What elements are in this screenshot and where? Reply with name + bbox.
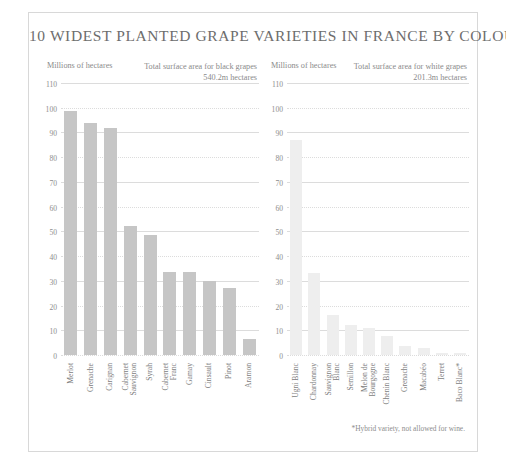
y-axis-units-label-right: Millions of hectares [271,61,336,70]
y-axis-tick-label: 10 [49,327,57,336]
bar-slot [414,83,432,355]
bar[interactable] [327,315,339,355]
x-axis-tick-label: SauvignonBlanc [324,363,341,396]
x-axis-tick-label: Terret [438,363,446,381]
page-title: 10 WIDEST PLANTED GRAPE VARIETIES IN FRA… [29,27,477,45]
y-axis-tick-label: 30 [275,277,283,286]
bar[interactable] [84,123,97,355]
bar-slot [180,83,200,355]
x-axis-tick-label: Ugni Blanc [292,363,300,398]
gridline: 0 [287,355,469,356]
x-axis-tick-label: Pinot [225,363,233,379]
bar[interactable] [104,128,117,355]
y-axis-tick-label: 0 [53,352,57,361]
x-axis-labels-left: MerlotGrenacheCarignanCabernetSauvignonS… [61,361,259,435]
x-axis-tick-label: Grenache [401,363,409,392]
bar[interactable] [124,226,137,355]
plot-area-left: 1101009080706050403020100 [61,83,259,355]
y-axis-tick-label: 80 [49,154,57,163]
bar-slot [120,83,140,355]
bar[interactable] [345,325,357,355]
x-axis-tick-label: Baco Blanc* [456,363,464,402]
y-axis-tick-label: 70 [275,178,283,187]
bar[interactable] [399,346,411,355]
gridline: 0 [61,355,259,356]
bar[interactable] [243,339,256,355]
bar[interactable] [223,288,236,355]
x-label-slot: Carignan [101,361,121,435]
y-axis-tick-label: 60 [49,203,57,212]
total-area-value-right: 201.3m hectares [354,72,467,83]
x-axis-tick-label: Chardonnay [310,363,318,400]
bar-slot [101,83,121,355]
bar-slot [323,83,341,355]
bar[interactable] [144,235,157,355]
x-label-slot: Merlot [61,361,81,435]
bar[interactable] [418,348,430,355]
x-label-slot: Pinot [219,361,239,435]
bar-slot [219,83,239,355]
bar-slot [342,83,360,355]
bar[interactable] [290,140,302,355]
y-axis-tick-label: 90 [49,129,57,138]
y-axis-tick-label: 30 [49,277,57,286]
bar[interactable] [454,353,466,355]
y-axis-tick-label: 100 [272,104,283,113]
bar-slot [200,83,220,355]
x-label-slot: Aramon [239,361,259,435]
y-axis-tick-label: 50 [49,228,57,237]
y-axis-tick-label: 110 [272,80,283,89]
bar[interactable] [183,272,196,355]
y-axis-tick-label: 80 [275,154,283,163]
bar[interactable] [436,353,448,355]
x-axis-tick-label: Aramon [245,363,253,388]
bar-slot [378,83,396,355]
plot-area-right: 1101009080706050403020100 [287,83,469,355]
y-axis-tick-label: 0 [279,352,283,361]
x-label-slot: Gamay [180,361,200,435]
x-axis-tick-label: Syrah [146,363,154,381]
y-axis-tick-label: 110 [46,80,57,89]
bar-slot [160,83,180,355]
y-axis-tick-label: 20 [275,302,283,311]
x-axis-tick-label: Cinsault [205,363,213,388]
total-area-value-left: 540.2m hectares [144,72,257,83]
bar[interactable] [308,273,320,355]
x-axis-tick-label: CabernetSauvignon [122,363,139,396]
bar-slot [360,83,378,355]
panel-black-grapes: Millions of hectares Total surface area … [39,61,261,441]
x-axis-tick-label: Merlot [67,363,75,384]
bars-right [287,83,469,355]
x-axis-tick-label: Chenin Blanc [383,363,391,405]
bar-slot [451,83,469,355]
bar-slot [396,83,414,355]
y-axis-tick-label: 60 [275,203,283,212]
bar-slot [81,83,101,355]
bar[interactable] [363,328,375,355]
bar[interactable] [64,111,77,355]
total-area-right: Total surface area for white grapes 201.… [354,61,467,83]
footnote: *Hybrid variety, not allowed for wine. [352,424,465,433]
y-axis-tick-label: 40 [275,253,283,262]
x-axis-tick-label: Macabéo [419,363,427,391]
bar-slot [433,83,451,355]
y-axis-tick-label: 50 [275,228,283,237]
total-area-left: Total surface area for black grapes 540.… [144,61,257,83]
y-axis-tick-label: 40 [49,253,57,262]
x-label-slot: Grenache [81,361,101,435]
bar[interactable] [203,281,216,355]
x-axis-tick-label: Semillon [347,363,355,390]
x-label-slot: Ugni Blanc [287,361,305,435]
y-axis-tick-label: 20 [49,302,57,311]
total-area-label-right: Total surface area for white grapes [354,62,467,71]
x-axis-tick-label: Grenache [86,363,94,392]
bar[interactable] [381,336,393,355]
x-label-slot: Syrah [140,361,160,435]
total-area-label-left: Total surface area for black grapes [144,62,257,71]
bar-slot [239,83,259,355]
x-axis-tick-label: Carignan [106,363,114,391]
bar[interactable] [163,272,176,355]
bars-left [61,83,259,355]
y-axis-units-label-left: Millions of hectares [47,61,112,70]
chart-card: 10 WIDEST PLANTED GRAPE VARIETIES IN FRA… [28,12,478,452]
